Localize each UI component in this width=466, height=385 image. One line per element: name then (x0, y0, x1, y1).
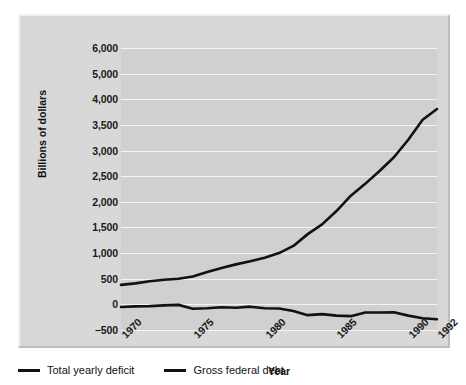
y-axis-tick-label: 2,000 (48, 197, 118, 207)
chart-figure: 6,0005,0004,0003,5003,0002,5002,0001,500… (0, 0, 466, 385)
chart-card: 6,0005,0004,0003,5003,0002,5002,0001,500… (18, 14, 450, 348)
y-axis-tick-label: −500 (48, 325, 118, 335)
legend-label: Gross federal debt (193, 364, 284, 376)
plot-area (121, 48, 437, 330)
y-axis-tick-label: 500 (48, 274, 118, 284)
legend-item[interactable]: Gross federal debt (164, 364, 284, 376)
line-marker-icon (164, 369, 186, 372)
y-axis-tick-label: 6,000 (48, 43, 118, 53)
legend-label: Total yearly deficit (47, 364, 134, 376)
y-axis-tick-label: 5,000 (48, 69, 118, 79)
series-lines (121, 48, 437, 330)
y-axis-tick-label: 4,000 (48, 94, 118, 104)
legend-item[interactable]: Total yearly deficit (18, 364, 134, 376)
line-marker-icon (18, 369, 40, 372)
y-axis-tick-label: 3,000 (48, 146, 118, 156)
y-axis-tick-label: 1,500 (48, 222, 118, 232)
y-axis-tick-label: 0 (48, 299, 118, 309)
y-axis-tick-label: 1,000 (48, 248, 118, 258)
y-axis-tick-labels: 6,0005,0004,0003,5003,0002,5002,0001,500… (44, 48, 118, 330)
chart-legend: Total yearly deficitGross federal debt (18, 360, 458, 380)
y-axis-tick-label: 3,500 (48, 120, 118, 130)
x-axis-tick-label: 1992 (435, 316, 460, 341)
y-axis-title: Billions of dollars (36, 74, 48, 194)
y-axis-tick-label: 2,500 (48, 171, 118, 181)
series-line (121, 109, 437, 285)
